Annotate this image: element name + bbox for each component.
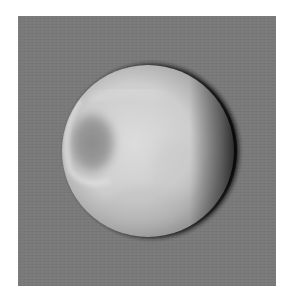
surface-mottle [153, 140, 197, 200]
crater-floor [66, 109, 118, 177]
moon-photograph [0, 0, 297, 305]
